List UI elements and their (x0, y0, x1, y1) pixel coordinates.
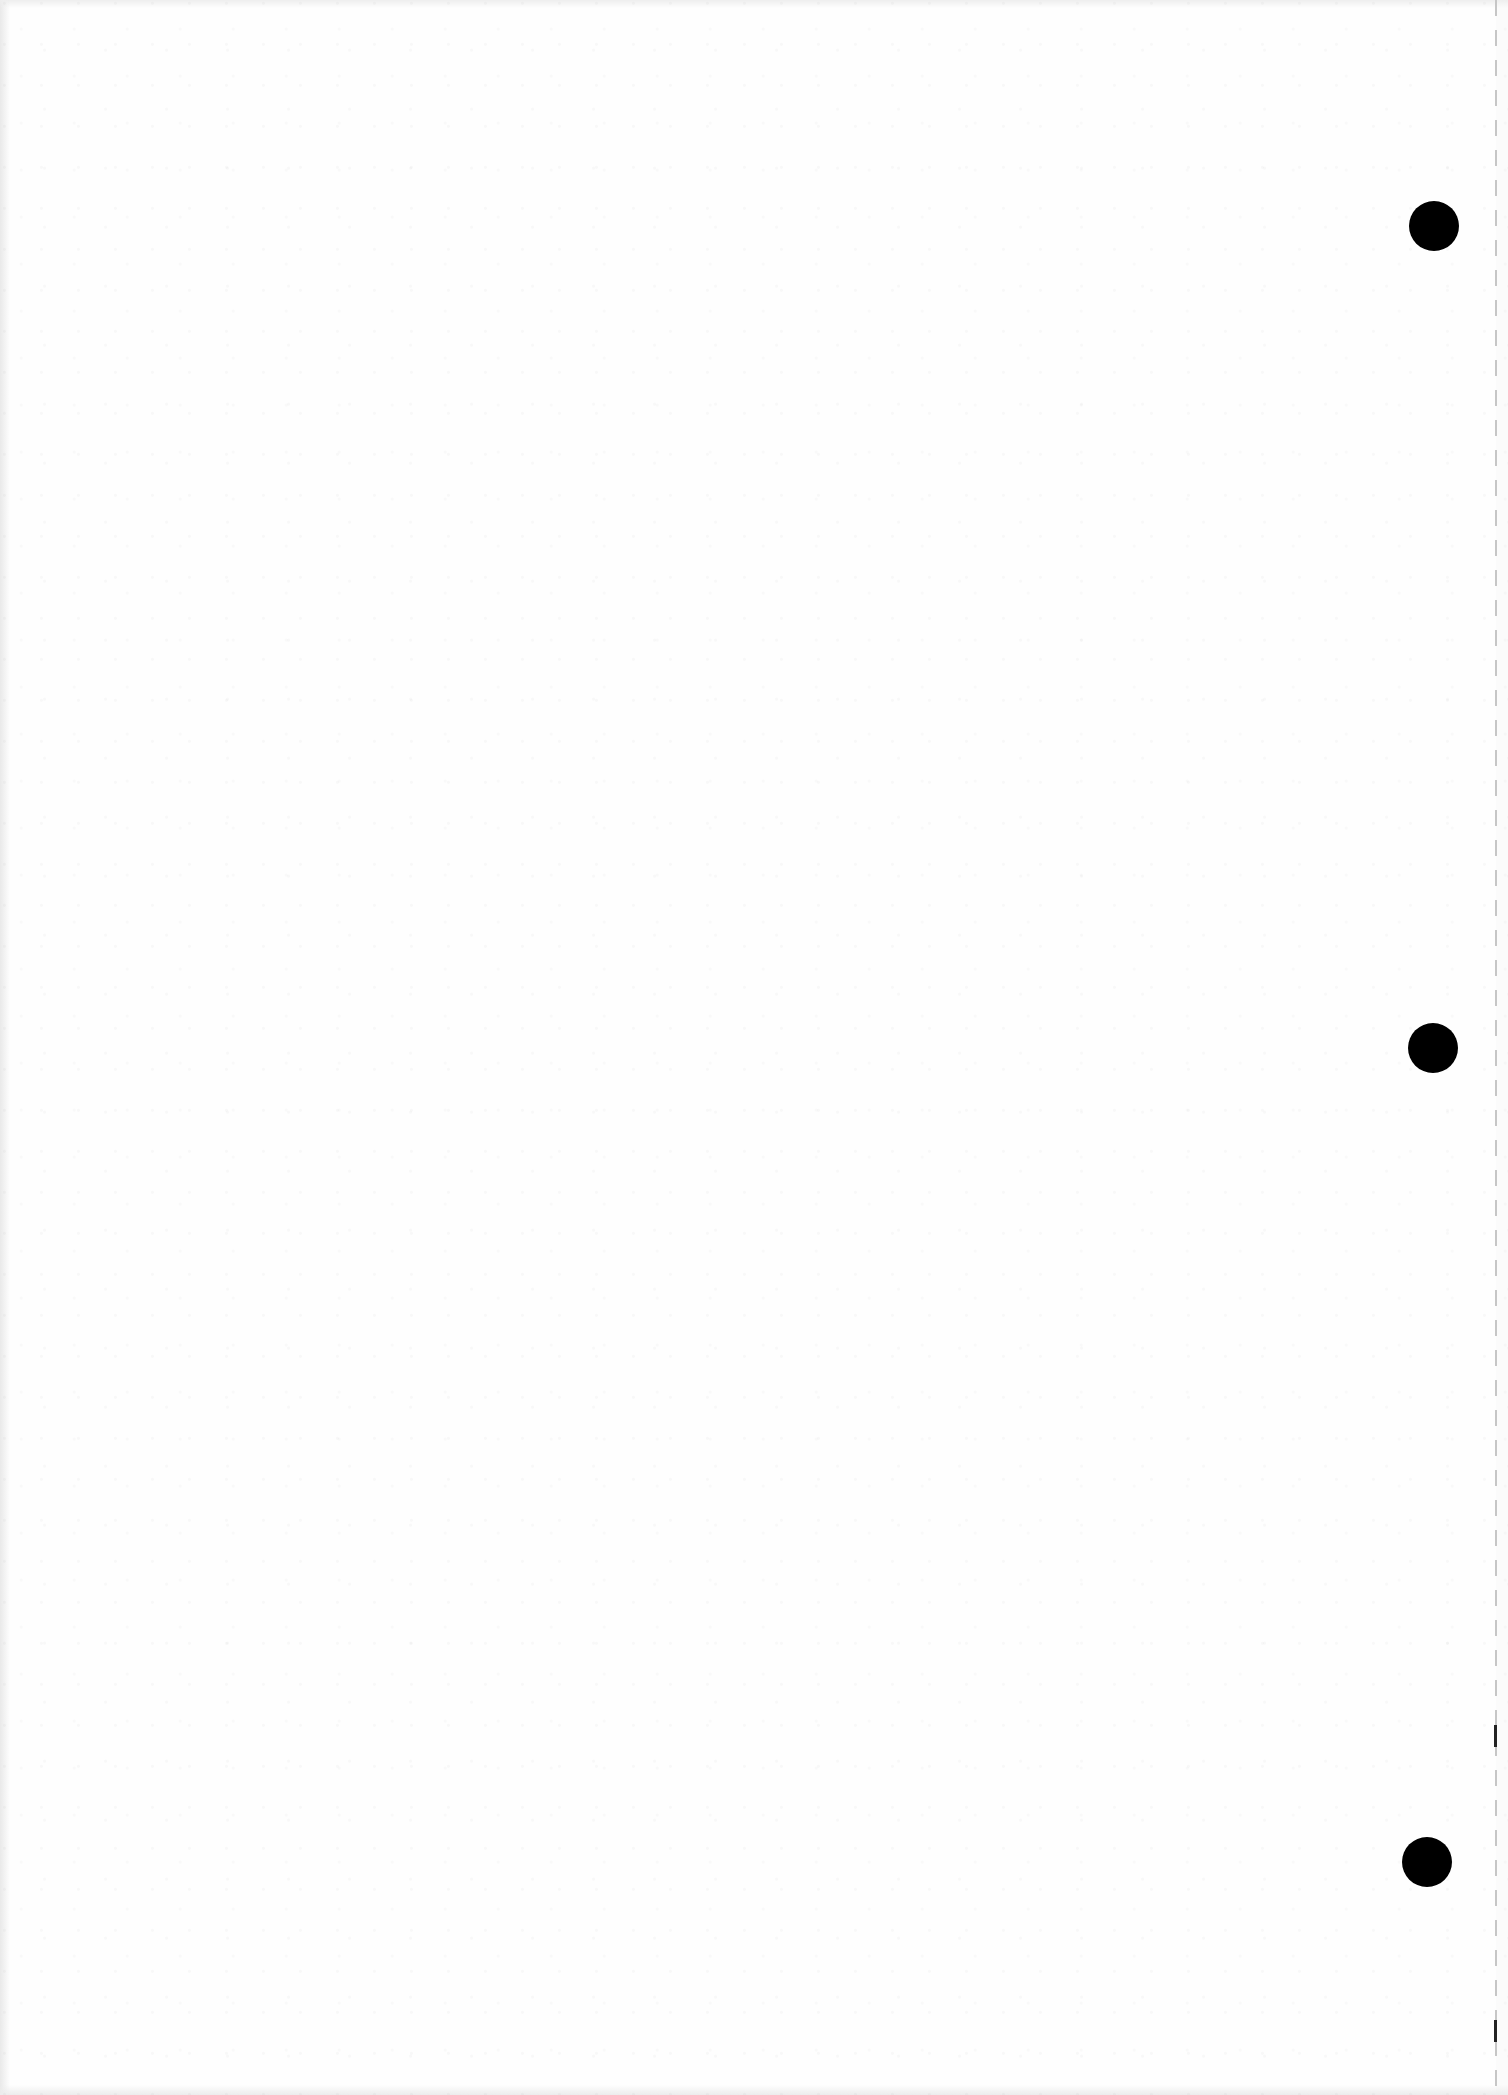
scan-noise (0, 0, 1508, 2095)
blank-page (0, 0, 1508, 2095)
perforation-line (1495, 0, 1497, 2095)
punch-hole-top-hole (1409, 201, 1459, 251)
punch-hole-bottom-hole (1402, 1837, 1452, 1887)
perforation-dark-mark (1494, 2020, 1497, 2042)
scan-shadow-left (0, 0, 10, 2095)
perforation-dark-mark (1494, 1725, 1497, 1747)
punch-hole-middle-hole (1408, 1023, 1458, 1073)
scan-shadow-bottom (0, 2085, 1508, 2095)
right-tear-strip (1496, 0, 1508, 2095)
scan-shadow-top (0, 0, 1508, 8)
